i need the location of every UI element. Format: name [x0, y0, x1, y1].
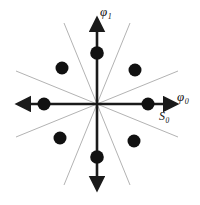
y-axis-label: φ1	[100, 5, 111, 18]
decision-boundary-ray	[16, 71, 97, 104]
y-axis-label-subscript: 1	[108, 12, 112, 21]
y-axis-label-base: φ	[100, 4, 107, 19]
x-axis-label: φ0	[177, 90, 188, 103]
decision-boundary-ray	[97, 104, 130, 185]
signal-point-label-subscript: 0	[166, 116, 170, 125]
x-axis-label-base: φ	[177, 89, 184, 104]
constellation-point	[38, 98, 51, 111]
constellation-point	[129, 64, 142, 77]
constellation-point	[142, 98, 155, 111]
constellation-plot	[0, 0, 200, 205]
x-axis-label-subscript: 0	[185, 97, 189, 106]
constellation-point	[90, 46, 104, 60]
constellation-point	[90, 150, 104, 164]
decision-boundary-ray	[97, 23, 130, 104]
signal-point-label-s0: S0	[159, 110, 169, 122]
signal-point-label-base: S	[159, 109, 165, 123]
constellation-point	[128, 135, 141, 148]
constellation-point	[56, 62, 69, 75]
constellation-figure: φ1 φ0 S0	[0, 0, 200, 205]
constellation-point	[54, 132, 67, 145]
decision-boundary-ray	[64, 104, 97, 185]
decision-boundary-ray	[64, 23, 97, 104]
decision-boundary-ray	[16, 104, 97, 137]
